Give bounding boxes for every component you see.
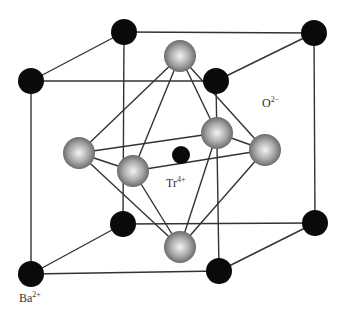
- titanium-atom: [172, 146, 190, 164]
- octahedron-edge-line: [79, 56, 180, 153]
- titanium-ion-label: Tr4+: [166, 176, 185, 189]
- barium-atom-ba-back-bottom-right: [302, 210, 328, 236]
- cube-edge-line: [314, 33, 315, 223]
- octahedron-edge-line: [133, 150, 265, 171]
- oxygen-symbol: O: [262, 96, 271, 110]
- barium-atom-ba-front-bottom-right: [206, 258, 232, 284]
- oxygen-ion-label: O2−: [262, 96, 279, 109]
- titanium-charge: 4+: [177, 175, 186, 184]
- oxygen-atom-o-left: [63, 137, 95, 169]
- cube-edge-line: [123, 223, 315, 224]
- oxygen-charge: 2−: [271, 95, 280, 104]
- oxygen-atom-o-right: [249, 134, 281, 166]
- cube-edge-line: [216, 33, 314, 81]
- oxygen-atom-o-front: [117, 155, 149, 187]
- cube-edge-line: [216, 81, 219, 271]
- octahedron-edge-line: [180, 150, 265, 247]
- cube-edge-line: [31, 32, 124, 81]
- octahedron-edges: [79, 56, 265, 247]
- barium-atom-ba-back-bottom-left: [110, 211, 136, 237]
- oxygen-atom-o-back: [201, 117, 233, 149]
- cube-edge-line: [219, 223, 315, 271]
- cube-edge-line: [31, 224, 123, 274]
- barium-atom-ba-back-top-right: [301, 20, 327, 46]
- barium-atom-ba-front-top-right: [203, 68, 229, 94]
- cube-edge-line: [31, 271, 219, 274]
- barium-ion-label: Ba2+: [19, 291, 41, 304]
- titanium-symbol: Tr: [166, 176, 177, 190]
- oxygen-atoms: [63, 40, 281, 263]
- cube-edge-line: [124, 32, 314, 33]
- titanium-atom: [172, 146, 190, 164]
- oxygen-atom-o-top: [164, 40, 196, 72]
- barium-symbol: Ba: [19, 291, 32, 305]
- barium-atom-ba-front-bottom-left: [18, 261, 44, 287]
- barium-atom-ba-back-top-left: [111, 19, 137, 45]
- barium-charge: 2+: [32, 290, 41, 299]
- barium-atom-ba-front-top-left: [18, 68, 44, 94]
- oxygen-atom-o-bottom: [164, 231, 196, 263]
- perovskite-unit-cell-diagram: [0, 0, 344, 315]
